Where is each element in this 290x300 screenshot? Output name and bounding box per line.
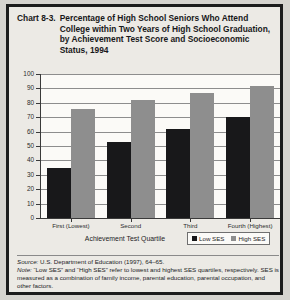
legend: Low SES High SES	[187, 232, 270, 245]
y-axis-tick-label: 90	[27, 85, 34, 92]
y-axis-tick	[36, 189, 40, 190]
y-axis-tick	[36, 117, 40, 118]
y-axis-tick	[36, 160, 40, 161]
bar-high-ses	[71, 109, 95, 218]
x-axis-tick-label: First (Lowest)	[41, 222, 101, 229]
screenshot-root: Chart 8-3. Percentage of High School Sen…	[0, 0, 290, 300]
x-axis-tick-label: Third	[161, 222, 221, 229]
legend-label-high-ses: High SES	[238, 235, 265, 242]
plot-area: 1009080706050403020100 First (Lowest)Sec…	[40, 74, 280, 219]
chart-title-block: Chart 8-3. Percentage of High School Sen…	[17, 13, 279, 55]
chart-panel-inner: Chart 8-3. Percentage of High School Sen…	[9, 7, 280, 292]
bar-low-ses	[107, 142, 131, 218]
y-axis-tick-label: 0	[30, 214, 34, 221]
y-axis-tick	[36, 146, 40, 147]
y-axis-tick-label: 50	[27, 142, 34, 149]
legend-swatch-icon-low-ses	[192, 236, 197, 241]
x-axis-tick-label: Fourth (Highest)	[220, 222, 280, 229]
legend-item-low-ses: Low SES	[192, 235, 224, 242]
x-axis-title: Achievement Test Quartile	[40, 235, 210, 242]
y-axis-tick	[36, 175, 40, 176]
bar-high-ses	[250, 86, 274, 218]
legend-label-low-ses: Low SES	[199, 235, 224, 242]
note-text: “Low SES” and “High SES” refer to lowest…	[17, 266, 279, 289]
y-axis-tick	[36, 74, 40, 75]
y-axis-tick-label: 10	[27, 200, 34, 207]
y-axis-tick-label: 20	[27, 186, 34, 193]
y-axis-tick-label: 70	[27, 114, 34, 121]
chart-number: Chart 8-3.	[17, 13, 60, 24]
legend-item-high-ses: High SES	[231, 235, 265, 242]
bar-low-ses	[47, 168, 71, 218]
y-axis-tick-label: 40	[27, 157, 34, 164]
x-axis-tick-label: Second	[101, 222, 161, 229]
page-title: Percentage of High School Seniors Who At…	[60, 13, 279, 55]
legend-swatch-icon-high-ses	[231, 236, 236, 241]
bar-group	[161, 74, 221, 218]
bar-group	[220, 74, 280, 218]
bar-high-ses	[190, 93, 214, 218]
chart-panel: Chart 8-3. Percentage of High School Sen…	[6, 4, 283, 295]
y-axis-tick-label: 80	[27, 99, 34, 106]
y-axis-tick-label: 60	[27, 128, 34, 135]
bar-group	[41, 74, 101, 218]
y-axis-tick	[36, 218, 40, 219]
source-label: Source:	[17, 258, 38, 265]
explanatory-note: Note: “Low SES” and “High SES” refer to …	[17, 266, 279, 290]
y-axis-tick-label: 100	[23, 70, 34, 77]
y-axis-tick	[36, 103, 40, 104]
bar-high-ses	[131, 100, 155, 218]
bar-groups	[41, 74, 280, 218]
bar-group	[101, 74, 161, 218]
chart-footnotes: Source: U.S. Department of Education (19…	[17, 255, 279, 290]
bar-low-ses	[166, 129, 190, 218]
y-axis-tick	[36, 204, 40, 205]
y-axis-tick-label: 30	[27, 171, 34, 178]
source-note: Source: U.S. Department of Education (19…	[17, 258, 279, 266]
note-label: Note:	[17, 266, 32, 273]
bar-low-ses	[226, 117, 250, 218]
source-text: U.S. Department of Education (1997), 64–…	[38, 258, 164, 265]
y-axis-tick	[36, 88, 40, 89]
y-axis-tick	[36, 132, 40, 133]
